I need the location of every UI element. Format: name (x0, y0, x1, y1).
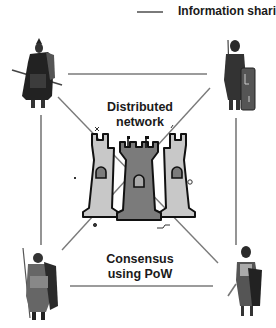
diagram-canvas: Information sharing (0, 0, 276, 328)
warrior-top-left-icon (12, 38, 62, 108)
soldier-bottom-right-icon (228, 246, 262, 316)
soldier-bottom-left-icon (23, 248, 58, 320)
node-figures (0, 0, 276, 328)
soldier-top-right-icon (224, 40, 255, 110)
